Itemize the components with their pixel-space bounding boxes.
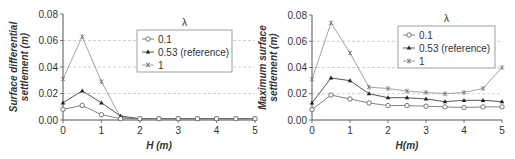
data-point — [80, 34, 84, 39]
y-tick-label: 0.08 — [288, 10, 308, 21]
y-tick-label: 0.06 — [288, 36, 308, 47]
data-point — [253, 116, 257, 120]
y-tick-label: 0.04 — [288, 62, 308, 73]
data-point — [214, 116, 218, 120]
data-point — [367, 91, 372, 95]
legend-item-label: 0.53 (reference) — [419, 43, 490, 54]
legend-item-label: 1 — [158, 60, 164, 71]
legend-title: λ — [182, 17, 187, 28]
legend: λ0.10.53 (reference)1 — [398, 13, 495, 68]
x-tick-label: 2 — [385, 125, 391, 136]
right-chart: 0.000.020.040.060.08012345H(m)Maximum su… — [257, 10, 505, 152]
charts-canvas: 0.000.020.040.060.08012345H (m)Surface d… — [0, 0, 515, 159]
x-tick-label: 4 — [214, 125, 220, 136]
data-point — [348, 51, 352, 56]
legend-item-label: 0.1 — [419, 30, 433, 41]
data-point — [348, 97, 352, 101]
data-point — [234, 116, 238, 120]
x-tick-label: 4 — [461, 125, 467, 136]
y-axis-label: Maximum surfacesettlement (m) — [257, 25, 279, 110]
x-axis-label: H (m) — [146, 140, 172, 151]
data-point — [138, 116, 142, 120]
legend: λ0.10.53 (reference)1 — [137, 17, 232, 72]
y-tick-label: 0.04 — [39, 62, 59, 73]
data-point — [424, 104, 428, 108]
x-tick-label: 1 — [347, 125, 353, 136]
data-point — [80, 88, 85, 92]
data-point — [367, 101, 371, 105]
x-tick-label: 1 — [99, 125, 105, 136]
x-tick-label: 5 — [252, 125, 258, 136]
y-tick-label: 0.02 — [288, 88, 308, 99]
data-point — [500, 65, 504, 70]
data-point — [61, 107, 65, 111]
y-tick-label: 0.00 — [288, 115, 308, 126]
x-tick-label: 0 — [309, 125, 315, 136]
legend-marker — [146, 37, 150, 41]
data-point — [481, 105, 485, 109]
data-point — [118, 116, 122, 120]
data-point — [195, 116, 199, 120]
series-line-0.53 — [63, 91, 255, 119]
data-point — [310, 77, 314, 82]
x-tick-label: 3 — [175, 125, 181, 136]
data-point — [99, 113, 103, 117]
legend-title: λ — [444, 13, 449, 24]
y-tick-label: 0.00 — [39, 115, 59, 126]
x-tick-label: 0 — [60, 125, 66, 136]
x-tick-label: 2 — [137, 125, 143, 136]
legend-marker — [407, 33, 411, 37]
data-point — [61, 77, 65, 82]
y-tick-label: 0.06 — [39, 35, 59, 46]
data-point — [176, 116, 180, 120]
data-point — [61, 100, 66, 104]
data-point — [80, 103, 84, 107]
data-point — [405, 103, 409, 107]
data-point — [99, 100, 104, 104]
data-point — [329, 93, 333, 97]
left-chart: 0.000.020.040.060.08012345H (m)Surface d… — [8, 9, 258, 152]
data-point — [329, 20, 333, 25]
data-point — [157, 116, 161, 120]
data-point — [310, 107, 314, 111]
y-tick-label: 0.02 — [39, 88, 59, 99]
y-tick-label: 0.08 — [39, 9, 59, 20]
y-axis-label: Surface differentialsettlement (m) — [8, 22, 30, 113]
x-axis-label: H(m) — [396, 140, 419, 151]
data-point — [462, 105, 466, 109]
data-point — [500, 105, 504, 109]
data-point — [386, 103, 390, 107]
x-tick-label: 3 — [423, 125, 429, 136]
x-tick-label: 5 — [499, 125, 505, 136]
data-point — [443, 105, 447, 109]
legend-item-label: 0.53 (reference) — [158, 47, 229, 58]
data-point — [99, 79, 103, 84]
legend-item-label: 1 — [419, 56, 425, 67]
legend-item-label: 0.1 — [158, 34, 172, 45]
data-point — [329, 76, 334, 80]
